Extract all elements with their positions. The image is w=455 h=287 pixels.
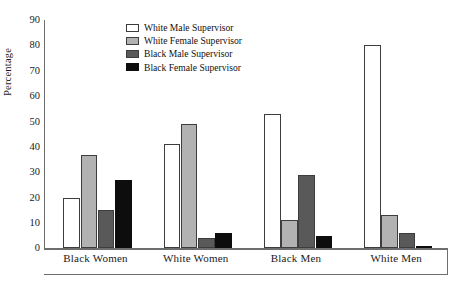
legend-swatch-icon xyxy=(126,63,139,71)
bar-group xyxy=(63,20,131,248)
legend-label: White Male Supervisor xyxy=(144,23,234,33)
y-axis-tick-10: 10 xyxy=(14,218,40,229)
y-axis-tick-80: 80 xyxy=(14,40,40,51)
bar xyxy=(63,198,80,249)
y-axis-tick-0: 0 xyxy=(14,243,40,254)
y-axis-tick-labels: 0102030405060708090 xyxy=(14,0,40,287)
chart-bottom-rule xyxy=(44,274,448,275)
bar xyxy=(399,233,416,248)
legend-label: White Female Supervisor xyxy=(144,36,242,46)
x-axis-label-1: White Women xyxy=(146,252,246,264)
legend-swatch-icon xyxy=(126,24,139,32)
bar xyxy=(381,215,398,248)
bar xyxy=(98,210,115,248)
bar xyxy=(198,238,215,248)
x-axis-category-labels: Black WomenWhite WomenBlack MenWhite Men xyxy=(45,252,446,274)
bar xyxy=(215,233,232,248)
y-axis-tick-90: 90 xyxy=(14,15,40,26)
y-axis-tick-60: 60 xyxy=(14,91,40,102)
legend-item: White Female Supervisor xyxy=(126,35,296,47)
legend-label: Black Female Supervisor xyxy=(144,63,241,73)
y-axis-tick-30: 30 xyxy=(14,167,40,178)
bar-group xyxy=(364,20,432,248)
bar xyxy=(264,114,281,249)
legend-item: Black Female Supervisor xyxy=(126,62,296,74)
bar xyxy=(281,220,298,248)
legend: White Male SupervisorWhite Female Superv… xyxy=(126,22,296,75)
bar xyxy=(115,180,132,249)
legend-swatch-icon xyxy=(126,37,139,45)
y-axis-label: Percentage xyxy=(2,0,13,96)
legend-swatch-icon xyxy=(126,50,139,58)
bar xyxy=(364,45,381,248)
bar xyxy=(81,155,98,249)
y-axis-tick-70: 70 xyxy=(14,66,40,77)
bar xyxy=(164,144,181,248)
x-axis-label-2: Black Men xyxy=(246,252,346,264)
bar xyxy=(298,175,315,249)
y-axis-tick-20: 20 xyxy=(14,192,40,203)
x-axis-label-0: Black Women xyxy=(45,252,145,264)
y-axis-tick-40: 40 xyxy=(14,142,40,153)
x-axis-baseline xyxy=(44,248,448,249)
legend-item: Black Male Supervisor xyxy=(126,48,296,60)
x-axis-label-3: White Men xyxy=(346,252,446,264)
legend-item: White Male Supervisor xyxy=(126,22,296,34)
chart-right-edge-rule xyxy=(447,249,448,275)
y-axis-tick-50: 50 xyxy=(14,116,40,127)
bar xyxy=(316,236,333,249)
bar-chart: Percentage 0102030405060708090 Black Wom… xyxy=(0,0,455,287)
legend-label: Black Male Supervisor xyxy=(144,49,232,59)
bar xyxy=(181,124,198,248)
bar xyxy=(416,246,433,249)
